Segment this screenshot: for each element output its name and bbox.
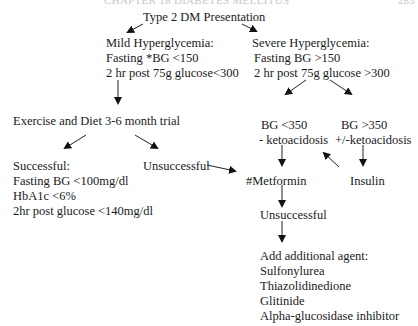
exercise-title: Exercise and Diet 3-6 month trial xyxy=(13,114,180,129)
agent-alpha-glucosidase-inhibitor: Alpha-glucosidase inhibitor xyxy=(260,309,399,324)
node-exercise-diet: Exercise and Diet 3-6 month trial xyxy=(13,114,180,129)
mild-fasting: Fasting *BG <150 xyxy=(106,51,239,66)
successful-hba1c: HbA1c <6% xyxy=(13,189,153,204)
arrow-unsuccessful-to-metformin xyxy=(207,165,235,171)
successful-fasting: Fasting BG <100mg/dl xyxy=(13,174,153,189)
node-severe-hyperglycemia: Severe Hyperglycemia: Fasting BG >150 2 … xyxy=(252,36,390,81)
unsuccessful-trial-title: Unsuccessful xyxy=(143,159,210,174)
arrow-severe-to-bglow xyxy=(286,80,306,94)
metformin-title: #Metformin xyxy=(246,174,306,189)
additional-title: Add additional agent: xyxy=(260,249,399,264)
unsuccessful-metformin-title: Unsuccessful xyxy=(260,208,327,223)
mild-postprandial: 2 hr post 75g glucose<300 xyxy=(106,66,239,81)
successful-title: Successful: xyxy=(13,159,153,174)
arrow-root-to-mild xyxy=(128,24,143,32)
agent-glitinide: Glitinide xyxy=(260,294,399,309)
successful-postprandial: 2hr post glucose <140mg/dl xyxy=(13,204,153,219)
node-title: Type 2 DM Presentation xyxy=(143,10,265,25)
severe-postprandial: 2 hr post 75g glucose >300 xyxy=(252,66,390,81)
node-mild-hyperglycemia: Mild Hyperglycemia: Fasting *BG <150 2 h… xyxy=(106,36,239,81)
arrow-insulin-to-metformin xyxy=(324,153,339,167)
bg-high-ketoacidosis: +/-ketoacidosis xyxy=(335,133,411,148)
node-insulin: Insulin xyxy=(350,174,385,189)
bg-low-ketoacidosis: - ketoacidosis xyxy=(259,133,328,148)
arrow-exercise-to-successful xyxy=(65,135,86,148)
severe-title: Severe Hyperglycemia: xyxy=(252,36,390,51)
insulin-title: Insulin xyxy=(350,174,385,189)
node-bg-above-350: BG >350 +/-ketoacidosis xyxy=(335,118,411,148)
node-unsuccessful-trial: Unsuccessful xyxy=(143,159,210,174)
agent-sulfonylurea: Sulfonylurea xyxy=(260,264,399,279)
arrow-severe-to-bghigh xyxy=(330,80,351,94)
severe-fasting: Fasting BG >150 xyxy=(252,51,390,66)
node-bg-below-350: BG <350 - ketoacidosis xyxy=(259,118,328,148)
bg-low-value: BG <350 xyxy=(259,118,328,133)
arrow-exercise-to-unsuccessful xyxy=(135,135,157,148)
node-type2-presentation: Type 2 DM Presentation xyxy=(143,10,265,25)
node-successful: Successful: Fasting BG <100mg/dl HbA1c <… xyxy=(13,159,153,219)
bg-high-value: BG >350 xyxy=(335,118,411,133)
agent-thiazolidinedione: Thiazolidinedione xyxy=(260,279,399,294)
arrow-root-to-severe xyxy=(242,24,256,31)
node-additional-agent: Add additional agent: Sulfonylurea Thiaz… xyxy=(260,249,399,324)
node-metformin: #Metformin xyxy=(246,174,306,189)
node-unsuccessful-metformin: Unsuccessful xyxy=(260,208,327,223)
mild-title: Mild Hyperglycemia: xyxy=(106,36,239,51)
